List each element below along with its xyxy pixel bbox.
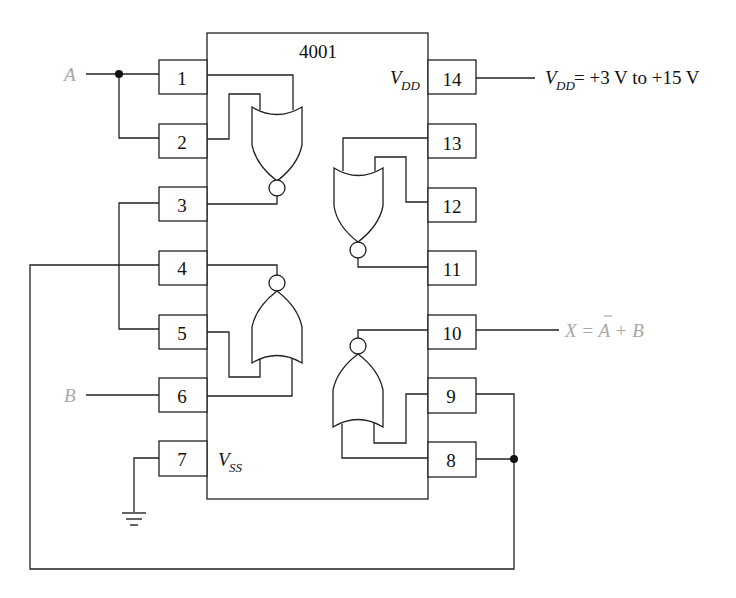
- output-x-label: X = A + B: [564, 316, 644, 341]
- junction-dot-a: [115, 70, 123, 78]
- pin-11: 11: [428, 251, 476, 285]
- svg-text:2: 2: [177, 132, 187, 153]
- svg-text:4: 4: [177, 258, 187, 279]
- input-b-label: B: [64, 385, 76, 406]
- svg-text:8: 8: [446, 450, 456, 471]
- junction-dot-89: [510, 455, 518, 463]
- wire-pin7-ground: [134, 458, 159, 512]
- ground-icon: [122, 513, 146, 525]
- pin-8: 8: [428, 442, 476, 477]
- pin-6: 6: [159, 378, 207, 412]
- svg-text:1: 1: [177, 68, 187, 89]
- pin-4: 4: [159, 251, 207, 285]
- svg-text:14: 14: [443, 69, 463, 90]
- pin-2: 2: [159, 124, 207, 158]
- circuit-diagram: 4001 V DD V SS 1 2 3 4 5 6 7 14: [0, 0, 736, 598]
- chip-body: [207, 33, 428, 499]
- svg-text:3: 3: [177, 195, 187, 216]
- svg-text:9: 9: [446, 386, 456, 407]
- input-a-label: A: [62, 64, 76, 85]
- pin-10: 10: [428, 315, 476, 349]
- wire-pin3-to-pin5: [119, 203, 159, 329]
- pin-3: 3: [159, 187, 207, 221]
- svg-text:13: 13: [443, 133, 462, 154]
- pin-14: 14: [428, 60, 476, 94]
- pin-9: 9: [428, 378, 476, 413]
- svg-text:SS: SS: [229, 460, 243, 475]
- svg-text:12: 12: [443, 196, 462, 217]
- svg-text:DD: DD: [400, 78, 420, 93]
- svg-text:DD: DD: [555, 78, 575, 93]
- pin-7: 7: [159, 441, 207, 476]
- input-a-wiring: [86, 70, 159, 138]
- svg-text:X = A + B: X = A + B: [564, 320, 644, 341]
- pin-13: 13: [428, 124, 476, 158]
- pin-12: 12: [428, 188, 476, 222]
- svg-text:= +3 V to +15 V: = +3 V to +15 V: [574, 67, 700, 88]
- pin-5: 5: [159, 315, 207, 349]
- svg-text:10: 10: [443, 323, 462, 344]
- svg-text:7: 7: [177, 449, 187, 470]
- svg-text:11: 11: [443, 259, 461, 280]
- a-bar: A: [597, 320, 611, 341]
- chip-part-number: 4001: [299, 41, 337, 62]
- vdd-supply-label: V DD = +3 V to +15 V: [545, 67, 700, 93]
- svg-text:6: 6: [177, 386, 187, 407]
- pin-1: 1: [159, 60, 207, 94]
- svg-text:5: 5: [177, 323, 187, 344]
